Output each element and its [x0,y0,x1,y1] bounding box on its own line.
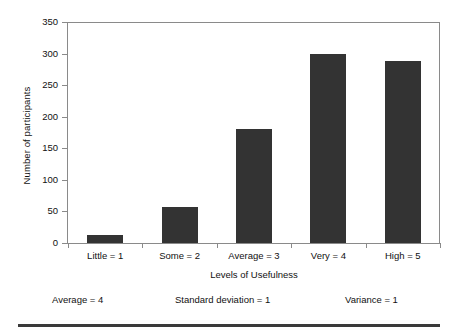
statistic-annotation: Standard deviation = 1 [175,294,270,305]
x-tick-mark [68,243,69,248]
x-tick-label: High = 5 [353,250,453,261]
x-tick-mark [440,243,441,248]
statistic-annotation: Average = 4 [52,294,103,305]
bottom-rule [18,324,440,327]
y-tick-label: 100 [20,174,58,185]
y-tick-label: 50 [20,205,58,216]
bar [385,61,421,243]
x-tick-mark [366,243,367,248]
y-tick-label: 300 [20,48,58,59]
bar [236,129,272,243]
y-tick-label: 250 [20,79,58,90]
statistics-annotations: Average = 4Standard deviation = 1Varianc… [0,294,454,310]
x-axis-line [67,243,441,244]
x-tick-mark [142,243,143,248]
y-tick-label: 0 [20,237,58,248]
y-tick-label: 150 [20,142,58,153]
x-axis-title: Levels of Usefulness [68,269,440,280]
x-tick-mark [217,243,218,248]
y-tick-label: 200 [20,111,58,122]
x-tick-mark [291,243,292,248]
plot-area [68,22,440,243]
bar [162,207,198,243]
y-tick-label: 350 [20,16,58,27]
statistic-annotation: Variance = 1 [345,294,398,305]
bar-chart-figure: Number of participants 05010015020025030… [0,0,454,333]
bar [87,235,123,243]
bar [310,54,346,243]
